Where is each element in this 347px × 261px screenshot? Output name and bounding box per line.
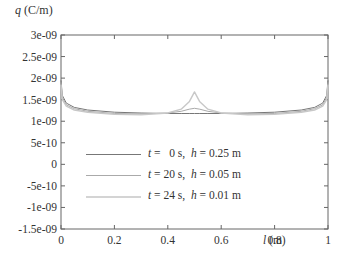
legend-line-icon	[86, 154, 141, 155]
legend-line-icon	[86, 196, 141, 198]
series-lines	[61, 80, 328, 115]
series-line	[61, 85, 328, 115]
legend-label: t = 0 s, h = 0.25 m	[148, 147, 241, 159]
legend-label: t = 24 s, h = 0.01 m	[148, 189, 241, 201]
legend-line-icon	[86, 175, 141, 176]
plot-area	[0, 0, 347, 261]
series-line	[61, 82, 328, 114]
legend-label: t = 20 s, h = 0.05 m	[148, 168, 241, 180]
